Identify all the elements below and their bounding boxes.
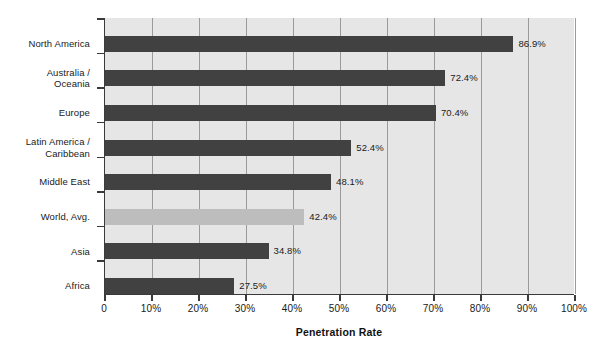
x-axis-tick	[292, 295, 294, 301]
x-axis-tick	[104, 295, 106, 301]
y-axis-category-label: Asia	[0, 246, 96, 258]
x-axis-tick-marks	[104, 295, 574, 301]
x-axis-tick	[151, 295, 153, 301]
x-axis-tick	[245, 295, 247, 301]
y-axis-tick	[97, 18, 104, 20]
y-axis-tick	[97, 260, 104, 262]
y-axis-tick	[97, 122, 104, 124]
y-axis-category-label: Middle East	[0, 176, 96, 188]
bar	[105, 174, 331, 190]
x-axis-title: Penetration Rate	[104, 326, 574, 338]
x-axis-tick-label: 0	[101, 303, 107, 314]
bar	[105, 36, 513, 52]
y-axis-category-label: Latin America /Caribbean	[0, 136, 96, 159]
y-axis-category-label: World, Avg.	[0, 211, 96, 223]
x-axis-tick	[527, 295, 529, 301]
y-axis-category-label: Africa	[0, 280, 96, 292]
y-axis-category-label: Australia /Oceania	[0, 67, 96, 90]
y-axis-tick	[97, 226, 104, 228]
y-axis-category-label-line: Africa	[0, 280, 90, 292]
gridline	[340, 18, 341, 294]
x-axis-tick	[386, 295, 388, 301]
y-axis-category-label-line: Oceania	[0, 78, 90, 90]
x-axis-tick-label: 60%	[376, 303, 396, 314]
x-axis-tick-label: 100%	[561, 303, 587, 314]
y-axis-category-label-line: Latin America /	[0, 136, 90, 148]
x-axis-tick	[433, 295, 435, 301]
bar	[105, 243, 269, 259]
bar-value-label: 70.4%	[441, 105, 468, 121]
gridline	[434, 18, 435, 294]
x-axis-tick	[574, 295, 576, 301]
y-axis-category-label-line: North America	[0, 38, 90, 50]
bar	[105, 140, 351, 156]
bar	[105, 105, 436, 121]
plot-area: 86.9%72.4%70.4%52.4%48.1%42.4%34.8%27.5%	[104, 18, 574, 295]
bar-value-label: 34.8%	[274, 243, 301, 259]
y-axis-category-labels: North AmericaAustralia /OceaniaEuropeLat…	[0, 18, 96, 295]
y-axis-category-label-line: Europe	[0, 107, 90, 119]
x-axis-tick-label: 30%	[235, 303, 255, 314]
x-axis-tick	[339, 295, 341, 301]
bar	[105, 209, 304, 225]
bar-value-label: 86.9%	[518, 36, 545, 52]
x-axis-tick-label: 10%	[141, 303, 161, 314]
bar-value-label: 72.4%	[450, 70, 477, 86]
x-axis-tick	[198, 295, 200, 301]
y-axis-category-label: Europe	[0, 107, 96, 119]
x-axis-tick-labels: 010%20%30%40%50%60%70%80%90%100%	[0, 303, 609, 317]
y-axis-category-label-line: Middle East	[0, 176, 90, 188]
y-axis-tick	[97, 157, 104, 159]
y-axis-category-label-line: Caribbean	[0, 148, 90, 160]
x-axis-tick	[480, 295, 482, 301]
x-axis-tick-label: 80%	[470, 303, 490, 314]
x-axis-tick-label: 20%	[188, 303, 208, 314]
y-axis-category-label: North America	[0, 38, 96, 50]
y-axis-category-label-line: Asia	[0, 246, 90, 258]
x-axis-tick-label: 90%	[517, 303, 537, 314]
penetration-rate-bar-chart: North AmericaAustralia /OceaniaEuropeLat…	[0, 0, 609, 356]
bar	[105, 70, 445, 86]
gridline	[481, 18, 482, 294]
bar-value-label: 27.5%	[239, 278, 266, 294]
y-axis-tick	[97, 53, 104, 55]
gridline	[528, 18, 529, 294]
x-axis-tick-label: 50%	[329, 303, 349, 314]
bar-value-label: 42.4%	[309, 209, 336, 225]
y-axis-category-label-line: Australia /	[0, 67, 90, 79]
x-axis-tick-label: 70%	[423, 303, 443, 314]
y-axis-category-label-line: World, Avg.	[0, 211, 90, 223]
gridline	[575, 18, 576, 294]
bar-value-label: 52.4%	[356, 140, 383, 156]
gridline	[387, 18, 388, 294]
x-axis-tick-label: 40%	[282, 303, 302, 314]
y-axis-tick	[97, 87, 104, 89]
bar-value-label: 48.1%	[336, 174, 363, 190]
bar	[105, 278, 234, 294]
y-axis-tick	[97, 191, 104, 193]
